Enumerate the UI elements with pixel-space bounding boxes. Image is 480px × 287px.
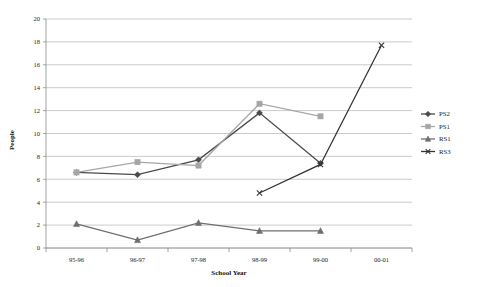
data-point-square-marker — [74, 170, 79, 175]
y-tick-label: 0 — [37, 244, 40, 251]
x-tick-label: 96-97 — [130, 256, 146, 263]
legend-label: RS1 — [439, 135, 451, 142]
y-tick-label: 2 — [37, 221, 40, 228]
legend-entry-RS1[interactable]: RS1 — [421, 135, 451, 142]
legend-entry-RS3[interactable]: RS3 — [421, 148, 451, 155]
series-RS1 — [74, 220, 324, 243]
legend-label: PS2 — [439, 110, 451, 117]
data-point-square-marker — [318, 114, 323, 119]
x-tick-label: 98-99 — [252, 256, 267, 263]
y-tick-label: 10 — [34, 130, 41, 137]
x-axis-title: School Year — [211, 269, 246, 277]
data-point-triangle-marker — [74, 221, 80, 227]
legend-entry-PS1[interactable]: PS1 — [421, 123, 450, 130]
x-axis-tick-labels: 95-9696-9797-9898-9999-0000-01 — [46, 248, 412, 263]
legend-label: PS1 — [439, 123, 450, 130]
data-point-square-marker — [196, 163, 201, 168]
y-tick-label: 4 — [37, 199, 41, 206]
x-tick-label: 99-00 — [313, 256, 328, 263]
x-tick-label: 00-01 — [374, 256, 389, 263]
y-tick-label: 16 — [34, 61, 41, 68]
y-tick-label: 20 — [34, 15, 41, 22]
x-tick-label: 95-96 — [69, 256, 85, 263]
line-chart: 02468101214161820 95-9696-9797-9898-9999… — [0, 0, 480, 287]
data-point-diamond-marker — [135, 172, 141, 178]
data-point-square-marker — [426, 124, 431, 129]
gridlines-group — [43, 19, 412, 248]
series-group — [74, 43, 385, 243]
y-tick-label: 8 — [37, 153, 40, 160]
series-PS1 — [74, 101, 323, 175]
data-point-x-marker — [257, 190, 262, 195]
y-axis-title: People — [8, 130, 16, 150]
y-tick-label: 12 — [34, 107, 41, 114]
legend-label: RS3 — [439, 148, 451, 155]
y-tick-label: 18 — [34, 38, 41, 45]
data-point-square-marker — [257, 101, 262, 106]
chart-svg: 02468101214161820 95-9696-9797-9898-9999… — [0, 0, 480, 287]
y-tick-label: 6 — [37, 176, 41, 183]
data-point-x-marker — [379, 43, 384, 48]
y-axis-tick-labels: 02468101214161820 — [34, 15, 41, 251]
data-point-square-marker — [135, 160, 140, 165]
legend-entry-PS2[interactable]: PS2 — [421, 110, 451, 117]
data-point-diamond-marker — [425, 111, 430, 116]
legend: PS2PS1RS1RS3 — [421, 110, 451, 155]
x-tick-label: 97-98 — [191, 256, 206, 263]
y-tick-label: 14 — [34, 84, 41, 91]
